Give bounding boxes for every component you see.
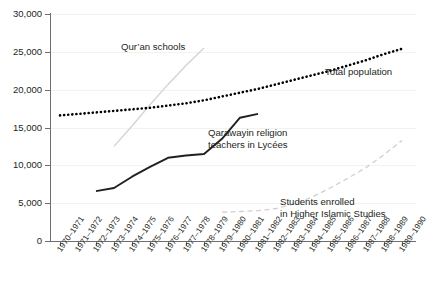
annotation-qarawayin-line1: Qarawayin religion — [208, 127, 287, 139]
annotation-higher-islamic-line1: Students enrolled — [280, 196, 355, 208]
series-total-population — [60, 49, 402, 116]
series-qarawayin-teachers — [96, 114, 258, 191]
series-quran-schools — [114, 48, 204, 146]
annotation-qarawayin-line2: teachers in Lycées — [208, 139, 288, 151]
annotation-quran-schools: Qur’an schools — [121, 41, 185, 53]
annotation-higher-islamic-line2: in Higher Islamic Studies — [280, 208, 386, 220]
annotation-total-population: Total population — [325, 66, 392, 78]
